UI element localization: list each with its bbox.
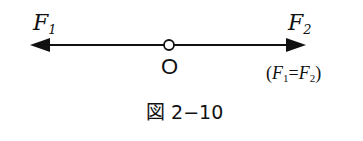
force-left-symbol: F bbox=[33, 10, 48, 35]
force-diagram: F1 F2 O (F1=F2) 図 2−10 bbox=[0, 0, 363, 141]
force-label-left: F1 bbox=[33, 12, 57, 41]
paren-close: ) bbox=[315, 63, 321, 83]
cond-left-symbol: F bbox=[272, 63, 283, 83]
force-label-right: F2 bbox=[288, 12, 312, 41]
figure-caption: 図 2−10 bbox=[146, 101, 223, 123]
origin-label: O bbox=[161, 56, 178, 78]
force-left-subscript: 1 bbox=[48, 22, 56, 37]
equality-condition: (F1=F2) bbox=[266, 63, 321, 88]
equals-sign: = bbox=[289, 63, 299, 83]
force-right-subscript: 2 bbox=[303, 22, 311, 37]
force-right-symbol: F bbox=[288, 10, 303, 35]
cond-right-symbol: F bbox=[299, 63, 310, 83]
origin-point-icon bbox=[164, 40, 174, 50]
